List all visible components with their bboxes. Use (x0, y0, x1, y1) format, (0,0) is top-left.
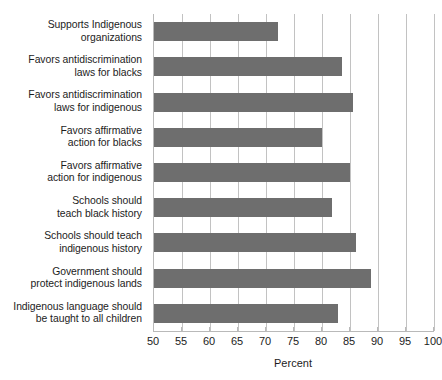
x-tick-label: 85 (343, 335, 355, 347)
x-tick-label: 65 (231, 335, 243, 347)
bar-row (154, 190, 433, 225)
x-tick-mark (405, 327, 406, 332)
category-label-line: laws for blacks (75, 67, 142, 80)
category-label: Favors antidiscriminationlaws for indige… (0, 84, 148, 119)
x-tick-label: 50 (147, 335, 159, 347)
x-axis: 50556065707580859095100 (153, 331, 433, 332)
category-label-column: Supports IndigenousorganizationsFavors a… (0, 14, 148, 331)
bar (154, 304, 338, 323)
category-label: Schools should teachindigenous history (0, 225, 148, 260)
bar (154, 233, 356, 252)
bar-row (154, 49, 433, 84)
bar (154, 22, 278, 41)
x-tick-mark (209, 327, 210, 332)
category-label-line: Favors affirmative (61, 125, 142, 138)
category-label-line: Supports Indigenous (48, 19, 142, 32)
bar-row (154, 120, 433, 155)
x-tick-mark (265, 327, 266, 332)
bar-row (154, 296, 433, 331)
x-tick-label: 75 (287, 335, 299, 347)
category-label: Favors antidiscriminationlaws for blacks (0, 49, 148, 84)
x-tick-mark (321, 327, 322, 332)
category-label-line: Favors affirmative (61, 160, 142, 173)
category-label: Favors affirmativeaction for blacks (0, 120, 148, 155)
category-label-line: action for indigenous (47, 172, 142, 185)
x-tick-mark (349, 327, 350, 332)
bar (154, 163, 350, 182)
x-tick-label: 90 (371, 335, 383, 347)
category-label-line: Government should (52, 266, 142, 279)
category-label-line: be taught to all children (36, 313, 142, 326)
category-label-line: Schools should (72, 195, 142, 208)
bar (154, 198, 332, 217)
x-tick-label: 60 (203, 335, 215, 347)
x-tick-label: 80 (315, 335, 327, 347)
category-label: Supports Indigenousorganizations (0, 14, 148, 49)
category-label-line: Favors antidiscrimination (28, 89, 142, 102)
bar (154, 57, 342, 76)
bar-row (154, 84, 433, 119)
x-tick-mark (377, 327, 378, 332)
bar (154, 269, 371, 288)
x-tick-mark (293, 327, 294, 332)
x-tick-mark (181, 327, 182, 332)
category-label: Indigenous language shouldbe taught to a… (0, 296, 148, 331)
category-label: Government shouldprotect indigenous land… (0, 261, 148, 296)
bar-row (154, 261, 433, 296)
category-label-line: action for blacks (68, 137, 142, 150)
x-tick-mark (153, 327, 154, 332)
x-tick-mark (433, 327, 434, 332)
x-tick-label: 95 (399, 335, 411, 347)
plot-area (153, 14, 433, 331)
category-label: Schools shouldteach black history (0, 190, 148, 225)
bar-row (154, 14, 433, 49)
category-label-line: teach black history (57, 208, 142, 221)
x-tick-mark (237, 327, 238, 332)
category-label-line: Favors antidiscrimination (28, 54, 142, 67)
bar (154, 128, 322, 147)
x-tick-label: 100 (424, 335, 442, 347)
bars-layer (154, 14, 433, 331)
x-axis-title: Percent (153, 357, 433, 369)
category-label-line: Indigenous language should (13, 301, 142, 314)
category-label-line: indigenous history (59, 243, 142, 256)
bar-row (154, 225, 433, 260)
category-label-line: organizations (81, 32, 142, 45)
category-label-line: laws for indigenous (54, 102, 142, 115)
category-label: Favors affirmativeaction for indigenous (0, 155, 148, 190)
gridline (434, 14, 435, 331)
x-tick-label: 70 (259, 335, 271, 347)
bar-row (154, 155, 433, 190)
category-label-line: Schools should teach (44, 230, 142, 243)
x-tick-label: 55 (175, 335, 187, 347)
category-label-line: protect indigenous lands (31, 278, 142, 291)
bar (154, 93, 353, 112)
